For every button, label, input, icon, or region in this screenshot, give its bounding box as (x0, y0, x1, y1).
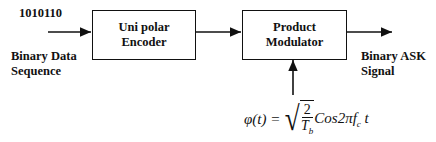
input-label-line1: Binary Data (11, 49, 77, 64)
output-label-line2: Signal (361, 64, 426, 79)
sqrt-sign: √ (285, 104, 300, 134)
formula-function: Cos2πfc t (314, 110, 368, 129)
output-label: Binary ASK Signal (361, 49, 426, 79)
encoder-label-line1: Uni polar (118, 20, 169, 35)
input-bits: 1010110 (19, 6, 62, 21)
fraction-numerator: 2 (302, 102, 313, 118)
formula-lhs: φ(t) = (244, 111, 280, 128)
encoder-label-line2: Encoder (121, 35, 166, 50)
output-label-line1: Binary ASK (361, 49, 426, 64)
fraction: 2 Tb (301, 102, 313, 139)
sqrt-expression: √ 2 Tb (283, 100, 314, 139)
fraction-denominator: Tb (301, 118, 313, 139)
product-modulator-block: Product Modulator (242, 10, 347, 60)
unipolar-encoder-block: Uni polar Encoder (92, 10, 196, 60)
input-label-line2: Sequence (11, 64, 77, 79)
modulator-label-line1: Product (273, 20, 316, 35)
modulator-label-line2: Modulator (266, 35, 324, 50)
carrier-formula: φ(t) = √ 2 Tb Cos2πfc t (244, 100, 369, 139)
input-label: Binary Data Sequence (11, 49, 77, 79)
